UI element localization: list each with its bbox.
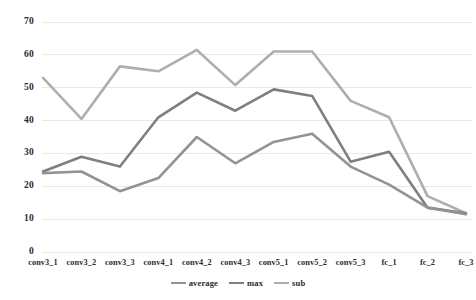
x-tick-label-fc_3: fc_3 (444, 259, 476, 267)
y-tick-label: 50 (8, 83, 34, 93)
legend-item-average[interactable]: average (171, 279, 218, 288)
x-tick-label-conv3_3: conv3_3 (98, 259, 142, 267)
legend-item-max[interactable]: max (229, 279, 263, 288)
chart-legend: averagemaxsub (0, 279, 476, 288)
x-tick-label-conv4_2: conv4_2 (175, 259, 219, 267)
x-tick-label-fc_2: fc_2 (406, 259, 450, 267)
gridlines-group (42, 22, 472, 252)
x-tick-label-conv3_2: conv3_2 (59, 259, 103, 267)
legend-line-swatch-icon (229, 282, 244, 284)
x-tick-label-conv3_1: conv3_1 (21, 259, 65, 267)
legend-label: max (247, 279, 263, 288)
x-tick-label-fc_1: fc_1 (367, 259, 411, 267)
chart-plot-area (0, 0, 476, 300)
legend-label: sub (292, 279, 305, 288)
series-lines-group (43, 50, 466, 214)
y-tick-label: 20 (8, 181, 34, 191)
legend-label: average (189, 279, 218, 288)
x-tick-label-conv5_2: conv5_2 (290, 259, 334, 267)
y-tick-label: 0 (8, 247, 34, 257)
series-line-sub (43, 50, 466, 213)
x-tick-label-conv5_1: conv5_1 (252, 259, 296, 267)
y-tick-label: 30 (8, 148, 34, 158)
y-tick-label: 60 (8, 50, 34, 60)
legend-item-sub[interactable]: sub (274, 279, 305, 288)
x-tick-label-conv5_3: conv5_3 (329, 259, 373, 267)
y-tick-label: 40 (8, 116, 34, 126)
x-tick-label-conv4_3: conv4_3 (213, 259, 257, 267)
x-tick-label-conv4_1: conv4_1 (136, 259, 180, 267)
y-tick-label: 70 (8, 17, 34, 27)
y-tick-label: 10 (8, 214, 34, 224)
legend-line-swatch-icon (274, 282, 289, 284)
legend-line-swatch-icon (171, 282, 186, 284)
line-chart: 706050403020100 conv3_1conv3_2conv3_3con… (0, 0, 476, 300)
